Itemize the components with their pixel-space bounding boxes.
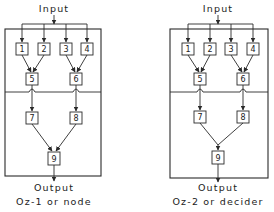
output-label: Output [34,182,74,193]
svg-text:7: 7 [29,114,34,123]
input-label: Input [39,3,70,14]
diagram-oz1: Input 1 2 3 4 5 6 7 8 9 O [5,3,101,207]
edge-8-junction [218,123,243,145]
edge-4-6 [244,55,253,72]
node-6: 6 [237,73,249,85]
svg-text:1: 1 [185,45,190,54]
node-9: 9 [48,152,60,165]
layer-divider [170,89,268,92]
svg-text:2: 2 [41,45,46,54]
node-7: 7 [26,112,38,124]
layer-divider [5,89,101,92]
node-8: 8 [70,112,82,124]
node-3: 3 [225,43,237,55]
diagram-canvas: Input 1 2 3 4 5 6 7 8 9 O [0,0,274,212]
edge-4-6 [77,55,87,72]
input-label: Input [203,3,234,14]
svg-text:5: 5 [197,75,202,84]
diagram-caption: Oz-1 or node [16,196,92,207]
node-9: 9 [212,151,224,164]
edge-8-9 [56,124,76,151]
svg-text:5: 5 [29,75,34,84]
node-4: 4 [81,43,93,55]
edge-7-9 [32,124,52,151]
edge-3-6 [231,55,242,72]
node-2: 2 [38,43,50,55]
svg-text:8: 8 [73,114,78,123]
edge-1-5 [22,55,31,72]
node-5: 5 [194,73,206,85]
svg-text:9: 9 [215,154,220,163]
node-7: 7 [194,111,206,123]
svg-text:9: 9 [51,155,56,164]
node-4: 4 [247,43,259,55]
node-1: 1 [182,43,194,55]
svg-text:4: 4 [250,45,255,54]
edge-2-5 [33,55,44,72]
svg-text:6: 6 [73,75,78,84]
diagram-oz2: Input 1 2 3 4 5 6 7 8 9 Output Oz-2 or d… [170,3,268,207]
svg-text:3: 3 [228,45,233,54]
edge-7-junction [200,123,218,145]
node-3: 3 [60,43,72,55]
output-label: Output [198,182,238,193]
svg-text:7: 7 [197,113,202,122]
diagram-caption: Oz-2 or decider [172,196,263,207]
node-2: 2 [204,43,216,55]
svg-text:3: 3 [63,45,68,54]
edge-1-5 [188,55,199,72]
svg-text:8: 8 [240,113,245,122]
node-8: 8 [237,111,249,123]
svg-text:2: 2 [207,45,212,54]
node-6: 6 [70,73,82,85]
edge-3-6 [66,55,75,72]
node-1: 1 [16,43,28,55]
edge-2-5 [201,55,210,72]
svg-text:4: 4 [84,45,89,54]
svg-text:1: 1 [19,45,24,54]
svg-text:6: 6 [240,75,245,84]
node-5: 5 [26,73,38,85]
